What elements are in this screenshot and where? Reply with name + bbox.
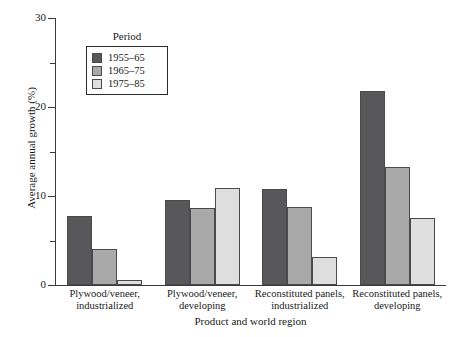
category-label-line: Reconstituted panels,	[245, 288, 355, 300]
bar-group	[349, 18, 447, 285]
bar-group	[154, 18, 252, 285]
legend-item: 1965–75	[92, 64, 161, 77]
category-label-line: industrialized	[245, 300, 355, 312]
legend-title: Period	[86, 30, 168, 43]
category-label-line: developing	[147, 300, 257, 312]
category-label-line: Plywood/veneer,	[50, 288, 160, 300]
y-tick-major	[48, 285, 55, 286]
y-axis-title: Average annual growth (%)	[25, 68, 37, 228]
bar-chart: 0102030 Average annual growth (%) Produc…	[0, 0, 459, 337]
category-label-line: Reconstituted panels,	[342, 288, 452, 300]
y-tick-label: 20	[2, 101, 46, 112]
legend-item-label: 1955–65	[108, 52, 145, 63]
x-axis-line	[55, 285, 446, 286]
category-label-line: developing	[342, 300, 452, 312]
legend-item-label: 1975–85	[108, 78, 145, 89]
category-label-line: industrialized	[50, 300, 160, 312]
y-tick-minor	[50, 241, 55, 242]
legend: Period 1955–651965–751975–85	[86, 30, 168, 95]
category-label-line: Plywood/veneer,	[147, 288, 257, 300]
x-axis-title: Product and world region	[55, 315, 446, 327]
x-axis-category-label: Plywood/veneer,developing	[147, 288, 257, 312]
legend-swatch-icon	[92, 66, 102, 76]
x-axis-category-label: Reconstituted panels,developing	[342, 288, 452, 312]
bar	[165, 200, 190, 285]
y-tick-major	[48, 18, 55, 19]
y-tick-label: 0	[2, 279, 46, 290]
bar	[360, 91, 385, 285]
bar	[262, 189, 287, 285]
y-tick-label: 30	[2, 12, 46, 23]
bar	[410, 218, 435, 285]
y-tick-minor	[50, 152, 55, 153]
x-axis-category-label: Plywood/veneer,industrialized	[50, 288, 160, 312]
y-tick-major	[48, 196, 55, 197]
legend-item: 1955–65	[92, 51, 161, 64]
legend-item-label: 1965–75	[108, 65, 145, 76]
bar	[215, 188, 240, 285]
legend-item: 1975–85	[92, 77, 161, 90]
x-axis-category-label: Reconstituted panels,industrialized	[245, 288, 355, 312]
bar	[92, 249, 117, 285]
legend-box: 1955–651965–751975–85	[86, 46, 168, 95]
bar-group	[251, 18, 349, 285]
bar	[190, 208, 215, 285]
bar	[287, 207, 312, 285]
y-tick-major	[48, 107, 55, 108]
legend-swatch-icon	[92, 79, 102, 89]
y-tick-label: 10	[2, 190, 46, 201]
bar	[312, 257, 337, 285]
y-tick-minor	[50, 63, 55, 64]
bar	[385, 167, 410, 285]
bar	[67, 216, 92, 285]
bar	[117, 280, 142, 285]
legend-swatch-icon	[92, 53, 102, 63]
